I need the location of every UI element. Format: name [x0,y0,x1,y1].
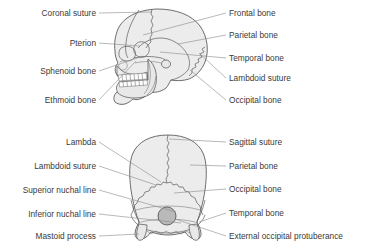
skull-diagram-svg: Coronal suture Pterion Sphenoid bone Eth… [0,0,374,247]
lateral-skull-drawing [114,9,207,104]
label-frontal-bone: Frontal bone [229,8,276,18]
label-external-occipital-protuberance: External occipital protuberance [229,231,343,241]
label-temporal-bone: Temporal bone [229,53,284,63]
label-inferior-nuchal-line: Inferior nuchal line [28,209,96,219]
label-parietal-bone-2: Parietal bone [229,161,278,171]
label-occipital-bone: Occipital bone [229,95,282,105]
label-sagittal-suture: Sagittal suture [229,137,282,147]
leader-occipital-bone [190,70,226,100]
label-lambdoid-suture-2: Lambdoid suture [34,161,96,171]
label-occipital-bone-2: Occipital bone [229,184,282,194]
label-ethmoid-bone: Ethmoid bone [45,95,97,105]
label-lambdoid-suture: Lambdoid suture [229,73,291,83]
label-temporal-bone-2: Temporal bone [229,208,284,218]
external-acoustic-meatus [162,60,171,68]
label-pterion: Pterion [70,38,97,48]
label-coronal-suture: Coronal suture [42,8,97,18]
leader-mastoid-process [99,234,139,236]
anatomy-figure: Coronal suture Pterion Sphenoid bone Eth… [0,0,374,247]
label-mastoid-process: Mastoid process [36,231,96,241]
label-sphenoid-bone: Sphenoid bone [40,66,96,76]
label-superior-nuchal-line: Superior nuchal line [23,185,97,195]
label-lambda: Lambda [66,137,96,147]
posterior-skull-drawing [130,135,207,240]
label-parietal-bone: Parietal bone [229,30,278,40]
